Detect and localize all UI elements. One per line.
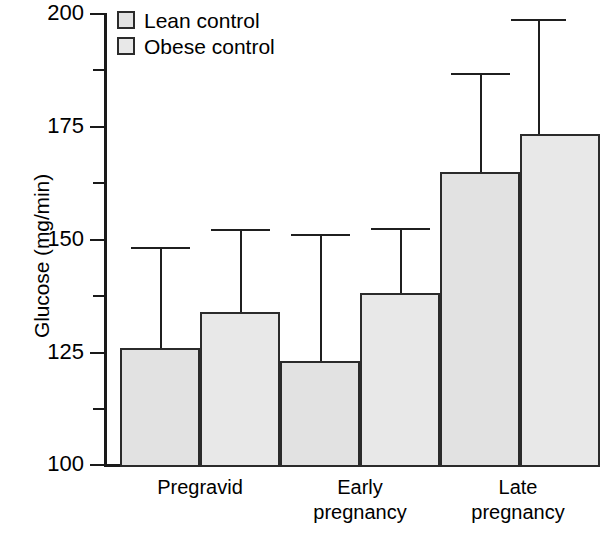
error-stem-obese-early (400, 228, 402, 295)
y-tick-150 (90, 239, 105, 241)
legend-swatch-obese-control (117, 37, 135, 55)
y-tick-label-100: 100 (0, 453, 84, 475)
y-tick-200 (90, 13, 105, 15)
error-stem-obese-late (538, 19, 540, 136)
y-tick-minor-112 (93, 408, 105, 410)
y-tick-label-125: 125 (0, 341, 84, 363)
legend-swatch-lean-control (117, 11, 135, 29)
y-tick-minor-162 (93, 182, 105, 184)
legend-label-lean-control: Lean control (144, 10, 260, 31)
bar-obese-late (520, 134, 600, 467)
category-label-pregravid: Pregravid (120, 475, 280, 500)
bar-lean-early (280, 361, 360, 467)
bar-obese-early (360, 293, 440, 467)
error-stem-lean-late (480, 73, 482, 174)
error-stem-lean-pregravid (160, 247, 162, 350)
y-tick-minor-187 (93, 69, 105, 71)
legend-label-obese-control: Obese control (144, 36, 275, 57)
error-stem-lean-early (320, 234, 322, 363)
y-tick-125 (90, 352, 105, 354)
legend-item-lean-control: Lean control (117, 7, 275, 33)
legend-item-obese-control: Obese control (117, 33, 275, 59)
legend: Lean control Obese control (117, 7, 275, 59)
y-tick-label-175: 175 (0, 115, 84, 137)
y-tick-label-150: 150 (0, 228, 84, 250)
error-stem-obese-pregravid (240, 229, 242, 314)
y-tick-175 (90, 126, 105, 128)
bar-lean-pregravid (120, 348, 200, 467)
y-tick-label-200: 200 (0, 2, 84, 24)
category-label-early-pregnancy: Early pregnancy (280, 475, 440, 525)
bar-obese-pregravid (200, 312, 280, 467)
category-label-late-pregnancy: Late pregnancy (438, 475, 598, 525)
y-tick-minor-137 (93, 295, 105, 297)
bar-lean-late (440, 172, 520, 467)
y-tick-100 (90, 464, 105, 466)
